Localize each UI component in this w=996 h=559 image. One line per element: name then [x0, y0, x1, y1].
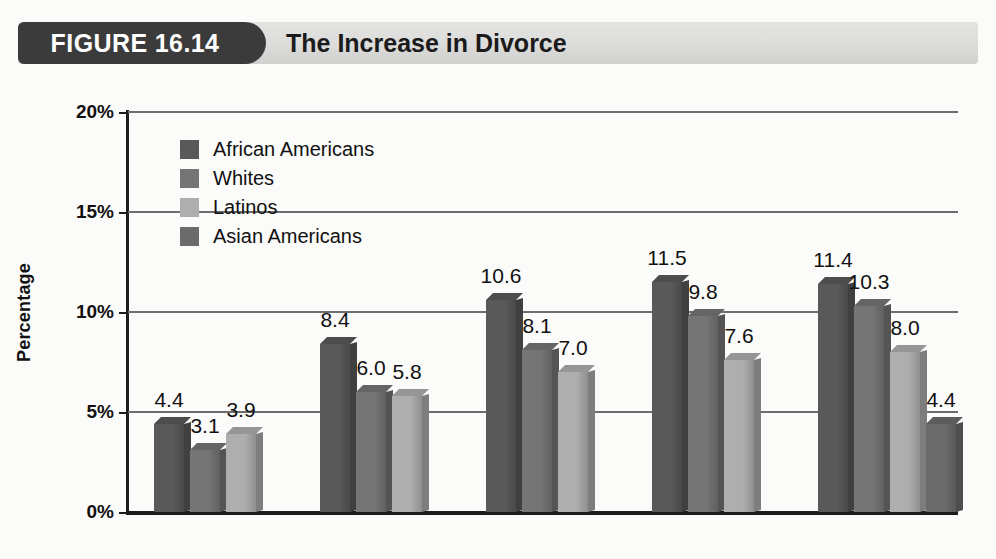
bar[interactable]: 11.4 [818, 284, 848, 512]
bar-face [652, 282, 682, 512]
bar[interactable]: 8.0 [890, 352, 920, 512]
bar-value-label: 11.5 [647, 246, 686, 270]
bar-value-label: 8.0 [890, 316, 919, 340]
bar-face [818, 284, 848, 512]
bar-value-label: 3.9 [226, 398, 255, 422]
legend-label: Latinos [213, 196, 278, 219]
bar[interactable]: 11.5 [652, 282, 682, 512]
y-tick-mark [119, 312, 128, 314]
bar-value-label: 7.6 [724, 324, 753, 348]
legend-swatch-icon [180, 140, 199, 159]
bar[interactable]: 3.1 [190, 450, 220, 512]
bar-value-label: 3.1 [190, 414, 219, 438]
legend-swatch-icon [180, 227, 199, 246]
legend-label: Asian Americans [213, 225, 362, 248]
bar-group-2000: 11.59.87.6 [626, 112, 792, 512]
y-tick-label: 10% [76, 301, 114, 323]
bar-side-edge [256, 432, 263, 512]
bar-face [724, 360, 754, 512]
bar-side-edge [422, 394, 429, 512]
bar-value-label: 10.6 [481, 264, 522, 288]
y-tick-mark [119, 512, 128, 514]
bar-face [154, 424, 184, 512]
bar[interactable]: 3.9 [226, 434, 256, 512]
bar-value-label: 6.0 [356, 356, 385, 380]
bar-face [688, 316, 718, 512]
bar[interactable]: 5.8 [392, 396, 422, 512]
bar-value-label: 9.8 [688, 280, 717, 304]
bar-value-label: 4.4 [926, 388, 955, 412]
legend-label: African Americans [213, 138, 374, 161]
legend-label: Whites [213, 167, 274, 190]
chart-container: Percentage 0%5%10%15%20% 4.43.13.98.46.0… [0, 74, 996, 559]
bar[interactable]: 4.4 [154, 424, 184, 512]
y-tick-label: 20% [76, 101, 114, 123]
bar-face [486, 300, 516, 512]
chart-legend: African AmericansWhitesLatinosAsian Amer… [180, 136, 374, 252]
y-tick-label: 0% [87, 501, 114, 523]
y-tick-label: 5% [87, 401, 114, 423]
bar-group-1990: 10.68.17.0 [460, 112, 626, 512]
bar-side-edge [956, 422, 963, 512]
legend-item-african-americans[interactable]: African Americans [180, 136, 374, 162]
bar[interactable]: 10.6 [486, 300, 516, 512]
legend-swatch-icon [180, 169, 199, 188]
y-tick-mark [119, 212, 128, 214]
plot-area: 0%5%10%15%20% 4.43.13.98.46.05.810.68.17… [128, 112, 958, 512]
bar[interactable]: 7.6 [724, 360, 754, 512]
y-axis-title: Percentage [14, 243, 35, 383]
bar-value-label: 7.0 [558, 336, 587, 360]
bar-group-2010: 11.410.38.04.4 [792, 112, 958, 512]
legend-item-whites[interactable]: Whites [180, 165, 374, 191]
bar-value-label: 10.3 [849, 270, 890, 294]
bar[interactable]: 9.8 [688, 316, 718, 512]
bar-face [320, 344, 350, 512]
bar[interactable]: 4.4 [926, 424, 956, 512]
bar-side-edge [754, 358, 761, 512]
bar[interactable]: 8.1 [522, 350, 552, 512]
bar-face [558, 372, 588, 512]
figure-header: FIGURE 16.14 The Increase in Divorce [18, 22, 978, 66]
bar-face [226, 434, 256, 512]
bar[interactable]: 7.0 [558, 372, 588, 512]
bar-value-label: 4.4 [154, 388, 183, 412]
bar-face [522, 350, 552, 512]
y-tick-mark [119, 412, 128, 414]
bar-face [190, 450, 220, 512]
bar-face [356, 392, 386, 512]
bar-value-label: 11.4 [813, 248, 852, 272]
y-tick-mark [119, 112, 128, 114]
legend-item-asian-americans[interactable]: Asian Americans [180, 223, 374, 249]
figure-number-tab: FIGURE 16.14 [18, 22, 266, 64]
bar-face [392, 396, 422, 512]
bar[interactable]: 6.0 [356, 392, 386, 512]
bar-face [854, 306, 884, 512]
y-tick-label: 15% [76, 201, 114, 223]
bar-value-label: 5.8 [392, 360, 421, 384]
bar-value-label: 8.4 [320, 308, 349, 332]
bar-face [890, 352, 920, 512]
bar-face [926, 424, 956, 512]
legend-item-latinos[interactable]: Latinos [180, 194, 374, 220]
bar[interactable]: 10.3 [854, 306, 884, 512]
figure-title: The Increase in Divorce [286, 22, 567, 64]
figure-number-label: FIGURE 16.14 [51, 29, 234, 58]
bar-value-label: 8.1 [522, 314, 551, 338]
bar-side-edge [588, 370, 595, 512]
legend-swatch-icon [180, 198, 199, 217]
bar[interactable]: 8.4 [320, 344, 350, 512]
